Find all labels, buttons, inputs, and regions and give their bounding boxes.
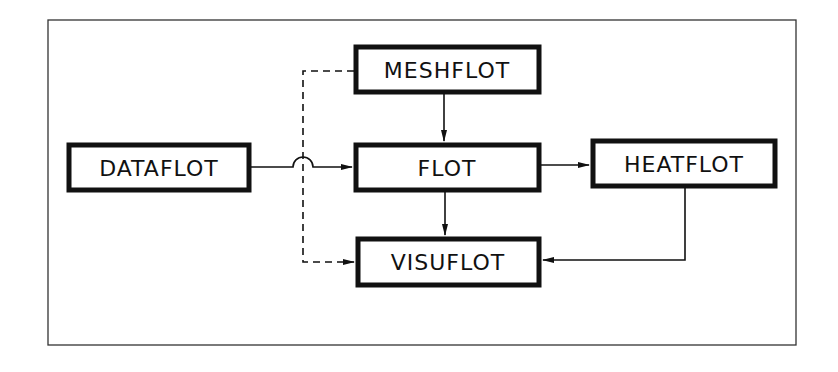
node-label: HEATFLOT xyxy=(624,152,744,177)
node-label: DATAFLOT xyxy=(99,156,219,181)
flow-diagram: DATAFLOT MESHFLOT FLOT HEATFLOT VISUFLOT xyxy=(0,0,838,372)
node-heatflot: HEATFLOT xyxy=(593,141,775,186)
node-label: MESHFLOT xyxy=(384,58,510,83)
node-flot: FLOT xyxy=(356,145,539,190)
edge-heatflot-to-visuflot xyxy=(543,188,685,260)
node-label: FLOT xyxy=(418,156,477,181)
node-label: VISUFLOT xyxy=(391,250,506,275)
edge-dataflot-to-flot xyxy=(251,157,352,167)
node-visuflot: VISUFLOT xyxy=(358,239,539,285)
node-dataflot: DATAFLOT xyxy=(69,145,249,190)
node-meshflot: MESHFLOT xyxy=(356,47,539,92)
